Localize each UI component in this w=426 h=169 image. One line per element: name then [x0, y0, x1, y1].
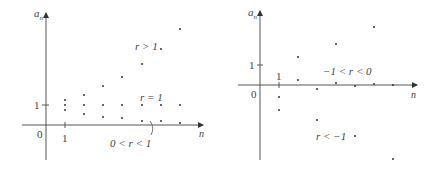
- geometric-sequence-diagram: an n 0 1 1 r > 1 r = 1 0 < r < 1: [0, 0, 426, 169]
- left-x-tick-label: 1: [62, 132, 68, 144]
- series-r-between-neg1-0: [278, 79, 394, 98]
- left-origin-label: 0: [37, 128, 43, 140]
- left-y-axis-label: an: [34, 7, 44, 22]
- right-y-tick-label: 1: [249, 59, 255, 71]
- series-r-gt-1: [64, 28, 181, 101]
- series-r-between-0-1: [64, 109, 181, 124]
- annotation-r-between-neg1-0: −1 < r < 0: [323, 65, 372, 77]
- right-x-tick-label: 1: [276, 70, 282, 82]
- right-origin-label: 0: [251, 88, 257, 100]
- annotation-pointer: [150, 121, 153, 135]
- annotation-r-gt-1: r > 1: [135, 40, 158, 52]
- right-y-axis-label: an: [248, 6, 258, 21]
- series-r-eq-1: [64, 104, 181, 106]
- left-plot: an n 0 1 1 r > 1 r = 1 0 < r < 1: [22, 7, 204, 160]
- left-y-tick-label: 1: [34, 99, 40, 111]
- right-plot: an n 0 1 1 −1 < r < 0 r < −1: [238, 6, 417, 160]
- left-x-axis-label: n: [199, 128, 204, 139]
- annotation-r-lt-neg1: r < −1: [316, 130, 346, 142]
- annotation-r-between-0-1: 0 < r < 1: [110, 137, 151, 149]
- annotation-r-eq-1: r = 1: [140, 91, 163, 103]
- right-x-axis-label: n: [411, 89, 416, 100]
